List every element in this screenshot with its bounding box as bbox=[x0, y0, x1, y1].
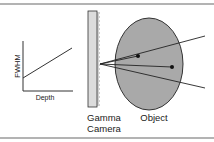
object-label: Object bbox=[140, 112, 168, 123]
near-source-point bbox=[136, 54, 140, 58]
object-ellipse bbox=[115, 18, 183, 110]
fwhm-depth-graph: FWHM Depth bbox=[13, 41, 73, 102]
collimator-ticks bbox=[97, 13, 100, 105]
far-source-point bbox=[170, 65, 174, 69]
camera-body bbox=[88, 11, 97, 107]
fwhm-trend-line bbox=[23, 48, 72, 78]
fwhm-depth-diagram: FWHM Depth bbox=[0, 0, 214, 142]
camera-label-line2: Camera bbox=[87, 123, 122, 134]
camera-label-line1: Gamma bbox=[87, 112, 122, 123]
x-axis-label: Depth bbox=[36, 94, 55, 102]
y-axis-label: FWHM bbox=[13, 54, 22, 77]
